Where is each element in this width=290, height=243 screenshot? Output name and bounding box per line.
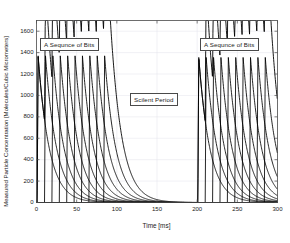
y-tick-label: 0	[30, 199, 33, 205]
pulse-trace	[205, 57, 277, 202]
annotation-sequence-of-bits-right: A Sequnce of Bits	[200, 38, 259, 51]
y-tick-label: 1200	[20, 71, 33, 77]
pulse-trace	[235, 57, 278, 202]
x-axis-label: Time [ms]	[36, 222, 277, 229]
annotation-sequence-of-bits-left: A Sequnce of Bits	[40, 38, 99, 51]
x-tick-label: 150	[145, 206, 169, 212]
y-tick-label: 1400	[20, 49, 33, 55]
pulse-trace	[89, 56, 177, 203]
y-tick-label: 800	[23, 113, 33, 119]
y-tick-label: 400	[23, 156, 33, 162]
x-tick-label: 0	[25, 206, 49, 212]
y-tick-label: 600	[23, 135, 33, 141]
y-tick-label: 1600	[20, 28, 33, 34]
x-tick-label: 50	[65, 206, 89, 212]
pulse-trace	[96, 56, 184, 203]
y-tick-label: 1000	[20, 92, 33, 98]
y-axis-label: Measured Particle Concentration [Molecul…	[0, 0, 11, 243]
y-tick-label: 200	[23, 178, 33, 184]
chart-figure: Measured Particle Concentration [Molecul…	[0, 0, 289, 243]
x-tick-label: 200	[185, 206, 209, 212]
x-tick-label: 250	[225, 206, 249, 212]
x-tick-label: 100	[105, 206, 129, 212]
annotation-silent-period: Scilent Period	[130, 93, 178, 106]
x-tick-label: 300	[266, 206, 290, 212]
